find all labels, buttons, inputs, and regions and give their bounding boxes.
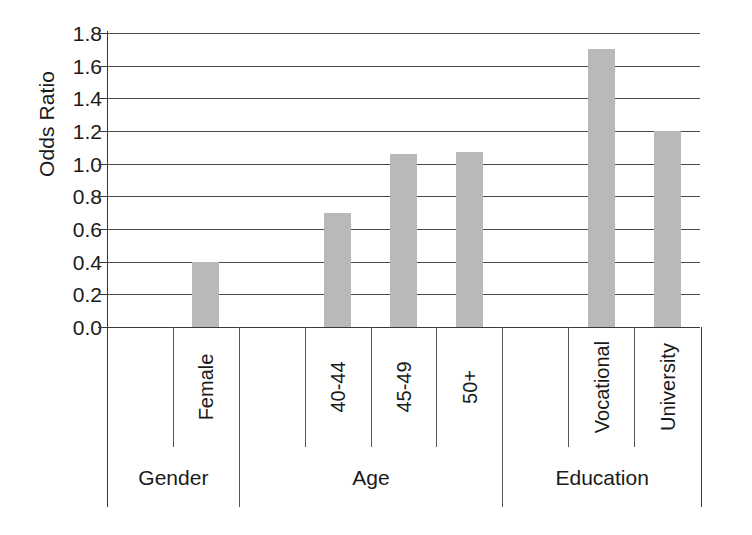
category-label: 40-44 xyxy=(328,361,348,412)
y-tick-label: 1.8 xyxy=(48,23,102,44)
y-tick-label: 0.6 xyxy=(48,219,102,240)
y-tick-label: 1.4 xyxy=(48,88,102,109)
y-tick-label: 0.8 xyxy=(48,186,102,207)
group-label-band: GenderAgeEducation xyxy=(107,447,702,507)
category-label: University xyxy=(658,343,678,431)
y-tick-label: 0.0 xyxy=(48,317,102,338)
reference-category-cell xyxy=(503,327,569,447)
y-tick-label: 0.2 xyxy=(48,284,102,305)
bar xyxy=(588,49,615,327)
category-cell: 45-49 xyxy=(372,327,438,447)
y-tick-label: 0.4 xyxy=(48,251,102,272)
bar xyxy=(192,262,219,327)
y-axis-spine xyxy=(107,31,108,329)
category-label: 50+ xyxy=(460,370,480,404)
y-tick-label: 1.2 xyxy=(48,121,102,142)
category-label-band: Female40-4445-4950+VocationalUniversity xyxy=(107,327,702,447)
y-axis-tick-labels: 1.81.61.41.21.00.80.60.40.20.0 xyxy=(44,0,102,535)
group-cell: Gender xyxy=(108,447,240,507)
category-cell: 50+ xyxy=(437,327,503,447)
category-cell: 40-44 xyxy=(306,327,372,447)
group-label: Age xyxy=(352,467,389,488)
group-label: Education xyxy=(555,467,648,488)
reference-category-cell xyxy=(108,327,174,447)
bar xyxy=(390,154,417,327)
y-tick-label: 1.6 xyxy=(48,55,102,76)
reference-category-cell xyxy=(240,327,306,447)
group-cell: Age xyxy=(240,447,504,507)
group-cell: Education xyxy=(503,447,701,507)
category-cell: Female xyxy=(174,327,240,447)
gridline xyxy=(107,33,700,34)
bar xyxy=(456,152,483,327)
category-label: Vocational xyxy=(592,341,612,433)
category-cell: Vocational xyxy=(569,327,635,447)
plot-area xyxy=(107,33,700,327)
category-label: Female xyxy=(196,354,216,421)
y-tick-label: 1.0 xyxy=(48,153,102,174)
odds-ratio-bar-chart: Odds Ratio 1.81.61.41.21.00.80.60.40.20.… xyxy=(0,0,752,535)
group-label: Gender xyxy=(138,467,208,488)
category-label: 45-49 xyxy=(394,361,414,412)
cropped-title-remnant xyxy=(0,0,752,3)
bar xyxy=(654,131,681,327)
bar xyxy=(324,213,351,327)
category-cell: University xyxy=(635,327,701,447)
